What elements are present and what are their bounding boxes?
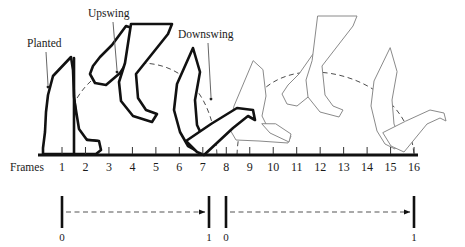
boot-light-frame-12 <box>306 16 357 117</box>
axis-tick-group <box>62 147 414 154</box>
axis-tick-label-16: 16 <box>408 160 420 174</box>
axis-tick-label-6: 6 <box>176 160 182 174</box>
axis-tick-label-14: 14 <box>361 160 373 174</box>
cycle-range-group: 0 1 0 1 <box>59 196 417 243</box>
walk-cycle-figure: Planted Upswing Downswing 12345678910111… <box>0 0 465 247</box>
axis-tick-label-5: 5 <box>153 160 159 174</box>
walk-cycle-diagram: Planted Upswing Downswing 12345678910111… <box>0 0 465 247</box>
callout-upswing-dot <box>116 71 119 74</box>
axis-tick-label-7: 7 <box>200 160 206 174</box>
callout-planted-leader <box>46 52 48 85</box>
cycle-range-right-start-label: 0 <box>223 231 229 243</box>
axis-tick-label-12: 12 <box>314 160 326 174</box>
callout-downswing-dot <box>210 98 213 101</box>
axis-tick-label-10: 10 <box>267 160 279 174</box>
axis-tick-label-15: 15 <box>385 160 397 174</box>
axis-tick-label-group: 12345678910111213141516 <box>59 160 420 174</box>
cycle-range-right-end-label: 1 <box>411 231 417 243</box>
axis-tick-label-13: 13 <box>338 160 350 174</box>
callout-planted-label: Planted <box>27 37 62 49</box>
axis-tick-label-2: 2 <box>82 160 88 174</box>
axis-tick-label-11: 11 <box>291 160 303 174</box>
callout-downswing-leader <box>208 43 211 97</box>
boot-group-bold <box>43 24 255 155</box>
axis-tick-label-8: 8 <box>223 160 229 174</box>
cycle-range-right: 0 1 <box>223 196 417 243</box>
boot-group-light <box>229 16 446 152</box>
axis-tick-label-9: 9 <box>247 160 253 174</box>
callout-planted-dot <box>47 86 50 89</box>
axis-tick-label-4: 4 <box>129 160 135 174</box>
cycle-range-left: 0 1 <box>59 196 212 243</box>
cycle-range-left-start-label: 0 <box>59 231 65 243</box>
callout-upswing-label: Upswing <box>88 7 130 20</box>
axis-tick-label-3: 3 <box>106 160 112 174</box>
frames-axis-label: Frames <box>10 161 44 173</box>
callout-downswing-label: Downswing <box>178 28 234 41</box>
cycle-range-left-end-label: 1 <box>206 231 212 243</box>
axis-tick-label-1: 1 <box>59 160 65 174</box>
